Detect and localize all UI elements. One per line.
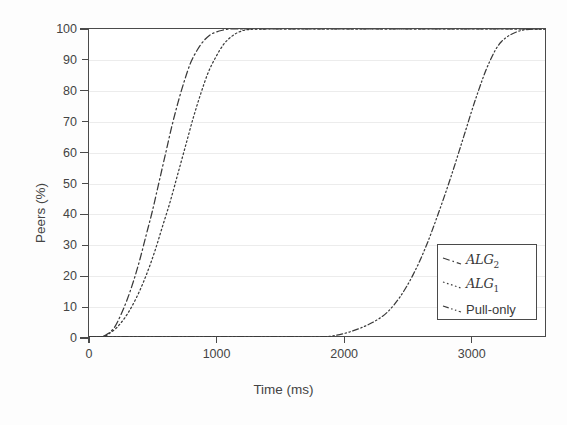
y-tick-label: 10 bbox=[63, 300, 77, 314]
x-tick-label: 3000 bbox=[458, 347, 486, 361]
x-tick bbox=[88, 336, 89, 343]
x-tick-label: 2000 bbox=[330, 347, 358, 361]
x-tick-label: 0 bbox=[86, 347, 93, 361]
y-tick bbox=[82, 245, 89, 246]
legend-item-pull-only[interactable]: Pull-only bbox=[438, 297, 536, 321]
y-tick-label: 0 bbox=[70, 331, 77, 345]
y-tick-label: 40 bbox=[63, 207, 77, 221]
x-axis-title: Time (ms) bbox=[0, 382, 567, 397]
legend-label-pull-only: Pull-only bbox=[466, 302, 516, 317]
legend-item-alg1[interactable]: ALG1 bbox=[438, 273, 536, 297]
y-tick-label: 20 bbox=[63, 269, 77, 283]
y-tick-label: 80 bbox=[63, 84, 77, 98]
y-tick-label: 90 bbox=[63, 53, 77, 67]
y-tick-label: 50 bbox=[63, 177, 77, 191]
y-tick bbox=[82, 183, 89, 184]
figure-canvas: Peers (%) 0102030405060708090100 0100020… bbox=[0, 0, 567, 425]
x-tick bbox=[344, 336, 345, 343]
x-tick-label: 1000 bbox=[203, 347, 231, 361]
x-tick bbox=[471, 336, 472, 343]
y-tick bbox=[80, 276, 89, 277]
y-tick bbox=[82, 59, 89, 60]
y-tick bbox=[80, 90, 89, 91]
y-tick bbox=[80, 28, 89, 29]
y-tick bbox=[82, 307, 89, 308]
y-tick bbox=[80, 152, 89, 153]
legend-swatch-pull-only-icon bbox=[442, 303, 464, 315]
legend-box[interactable]: ALG2ALG1Pull-only bbox=[437, 244, 537, 320]
y-tick bbox=[82, 121, 89, 122]
y-tick-label: 100 bbox=[56, 22, 77, 36]
legend-item-alg2[interactable]: ALG2 bbox=[438, 249, 536, 273]
y-tick-label: 70 bbox=[63, 115, 77, 129]
x-tick bbox=[216, 336, 217, 343]
y-tick-label: 60 bbox=[63, 146, 77, 160]
y-tick-label: 30 bbox=[63, 238, 77, 252]
legend-swatch-alg1-icon bbox=[442, 279, 464, 291]
y-axis-title: Peers (%) bbox=[33, 182, 48, 242]
legend-label-alg2: ALG2 bbox=[466, 252, 499, 270]
y-tick bbox=[80, 214, 89, 215]
legend-label-alg1: ALG1 bbox=[466, 276, 499, 294]
legend-swatch-alg2-icon bbox=[442, 255, 464, 267]
